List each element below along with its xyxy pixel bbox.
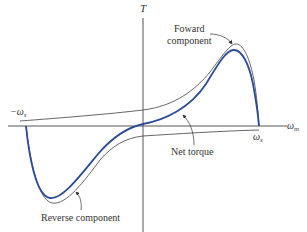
reverse-arrow: [76, 192, 81, 210]
reverse-component-curve: [26, 126, 259, 203]
forward-component-label: Foward: [174, 23, 205, 34]
torque-speed-diagram: T −ωs ωm ωs Foward component Net torque …: [0, 0, 307, 232]
neg-sync-speed-label: −ωs: [10, 106, 27, 119]
forward-arrow: [210, 34, 232, 44]
sync-speed-label: ωs: [253, 131, 263, 144]
net-torque-label: Net torque: [171, 146, 214, 157]
net-torque-arrow: [183, 115, 194, 145]
forward-component-label-2: component: [167, 35, 212, 46]
reverse-component-label: Reverse component: [41, 212, 120, 223]
y-axis-label: T: [140, 2, 147, 14]
x-axis-label: ωm: [287, 120, 299, 133]
net-torque-curve: [26, 50, 259, 198]
